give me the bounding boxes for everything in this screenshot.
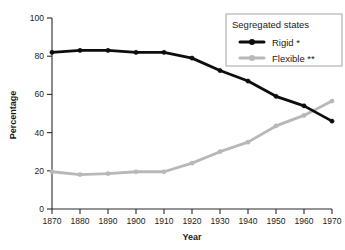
x-axis-title: Year — [182, 232, 202, 242]
y-axis-group: 020406080100 Percentage — [8, 13, 52, 214]
y-tick-label: 0 — [39, 204, 44, 214]
data-point-marker — [50, 50, 54, 54]
data-point-marker — [78, 48, 82, 52]
data-point-marker — [330, 119, 334, 123]
y-tick-label: 80 — [35, 51, 45, 61]
data-point-marker — [274, 94, 278, 98]
data-point-marker — [106, 48, 110, 52]
x-axis-group: 1870188018901900191019201930194019501960… — [43, 209, 342, 242]
x-tick-label: 1870 — [43, 216, 62, 226]
legend-entry-label: Rigid * — [272, 37, 300, 48]
data-point-marker — [190, 56, 194, 60]
x-tick-label: 1910 — [155, 216, 174, 226]
line-chart: 020406080100 Percentage 1870188018901900… — [0, 0, 345, 250]
data-point-marker — [246, 79, 250, 83]
x-tick-label: 1900 — [127, 216, 146, 226]
x-tick-label: 1970 — [323, 216, 342, 226]
data-point-marker — [50, 170, 54, 174]
chart-figure: 020406080100 Percentage 1870188018901900… — [0, 0, 345, 250]
data-point-marker — [162, 170, 166, 174]
x-tick-label: 1950 — [267, 216, 286, 226]
y-tick-labels: 020406080100 — [30, 13, 44, 214]
legend-swatch-marker — [249, 55, 255, 61]
data-point-marker — [106, 172, 110, 176]
data-point-marker — [218, 68, 222, 72]
y-tick-label: 20 — [35, 166, 45, 176]
y-tick-label: 100 — [30, 13, 44, 23]
data-point-marker — [134, 170, 138, 174]
legend-title: Segregated states — [232, 19, 309, 30]
data-point-marker — [134, 50, 138, 54]
x-tick-label: 1960 — [295, 216, 314, 226]
data-point-marker — [302, 104, 306, 108]
y-tick-marks — [47, 18, 52, 209]
x-tick-label: 1920 — [183, 216, 202, 226]
data-point-marker — [302, 113, 306, 117]
x-tick-label: 1930 — [211, 216, 230, 226]
data-point-marker — [274, 124, 278, 128]
x-tick-label: 1940 — [239, 216, 258, 226]
data-point-marker — [330, 99, 334, 103]
x-tick-labels: 1870188018901900191019201930194019501960… — [43, 216, 342, 226]
y-tick-label: 40 — [35, 128, 45, 138]
legend: Segregated states Rigid *Flexible ** — [226, 14, 342, 66]
data-point-marker — [190, 161, 194, 165]
legend-entry-label: Flexible ** — [272, 53, 315, 64]
legend-swatch-marker — [249, 39, 255, 45]
y-tick-label: 60 — [35, 89, 45, 99]
y-axis-title: Percentage — [8, 91, 18, 140]
data-series-layer — [50, 48, 334, 176]
data-point-marker — [162, 50, 166, 54]
data-point-marker — [246, 140, 250, 144]
x-tick-label: 1890 — [99, 216, 118, 226]
x-tick-marks — [52, 209, 332, 214]
series-flexible — [50, 99, 334, 177]
data-point-marker — [218, 150, 222, 154]
data-point-marker — [78, 173, 82, 177]
x-tick-label: 1880 — [71, 216, 90, 226]
